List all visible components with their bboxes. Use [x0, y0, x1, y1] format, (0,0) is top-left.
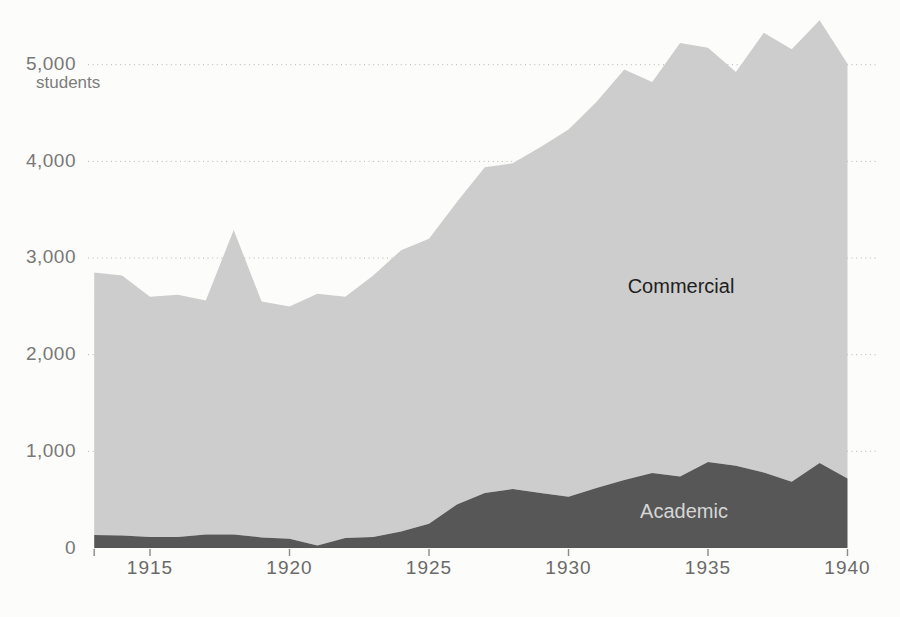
y-axis-labels: 5,000 students 4,000 3,000 2,000 1,000 0	[26, 53, 100, 558]
y-tick-label-3000: 3,000	[26, 246, 76, 267]
scanned-chart-page: 5,000 students 4,000 3,000 2,000 1,000 0…	[0, 0, 900, 617]
y-tick-label-2000: 2,000	[26, 343, 76, 364]
x-tick-label-1930: 1930	[545, 557, 591, 578]
x-tick-label-1925: 1925	[406, 557, 452, 578]
x-tick-label-1920: 1920	[266, 557, 312, 578]
stacked-area-chart: 5,000 students 4,000 3,000 2,000 1,000 0…	[0, 0, 900, 617]
y-tick-label-0: 0	[65, 537, 76, 558]
y-tick-label-4000: 4,000	[26, 150, 76, 171]
y-tick-label-1000: 1,000	[26, 440, 76, 461]
x-tick-label-1940: 1940	[824, 557, 870, 578]
commercial-series-label: Commercial	[628, 275, 735, 297]
academic-series-label: Academic	[640, 500, 728, 522]
y-axis-unit-label: students	[36, 73, 100, 92]
x-axis-ticks	[94, 549, 847, 556]
x-axis-labels: 1915 1920 1925 1930 1935 1940	[127, 557, 871, 578]
x-tick-label-1935: 1935	[685, 557, 731, 578]
y-tick-label-5000: 5,000	[26, 53, 76, 74]
x-tick-label-1915: 1915	[127, 557, 173, 578]
